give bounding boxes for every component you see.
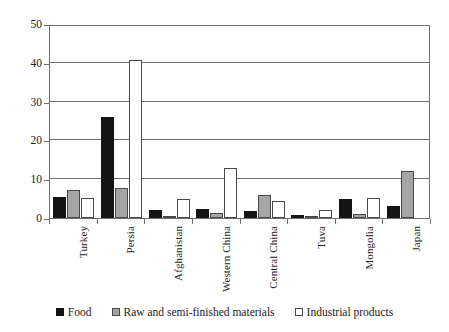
legend-label: Raw and semi-finished materials <box>124 306 275 318</box>
legend-item: Raw and semi-finished materials <box>112 306 275 318</box>
x-axis-tick-mark <box>240 219 241 224</box>
bar-group <box>50 24 98 218</box>
x-axis-tick-mark <box>430 219 431 224</box>
legend-item: Food <box>56 306 92 318</box>
raw-swatch-icon <box>112 308 120 316</box>
bar-raw <box>353 214 366 218</box>
y-axis-tick-label: 30 <box>8 97 42 109</box>
legend-label: Industrial products <box>307 306 394 318</box>
x-axis-category-label: Mongolia <box>364 226 375 270</box>
y-axis-tick-label: 50 <box>8 19 42 31</box>
legend-label: Food <box>68 306 92 318</box>
x-axis-tick-mark <box>287 219 288 224</box>
bar-industrial <box>129 60 142 218</box>
bar-food <box>101 117 114 218</box>
bar-raw <box>305 216 318 218</box>
x-axis-category-label: Central China <box>268 226 279 289</box>
y-axis-tick-label: 20 <box>8 135 42 147</box>
bar-food <box>339 199 352 218</box>
bar-food <box>244 211 257 218</box>
x-axis-tick-mark <box>192 219 193 224</box>
plot-wrapper: 01020304050 TurkeyPersiaAfghanistanWeste… <box>0 0 449 300</box>
chart-legend: FoodRaw and semi-finished materialsIndus… <box>0 306 449 318</box>
bar-food <box>387 206 400 218</box>
x-axis-tick-mark <box>382 219 383 224</box>
food-swatch-icon <box>56 308 64 316</box>
bar-industrial <box>319 210 332 218</box>
bar-group <box>241 24 289 218</box>
bar-group <box>145 24 193 218</box>
x-axis-category-label: Persia <box>125 226 136 253</box>
bar-group <box>98 24 146 218</box>
x-axis-category-label: Turkey <box>78 226 89 258</box>
x-axis-tick-mark <box>335 219 336 224</box>
bar-food <box>196 209 209 218</box>
x-axis-tick-mark <box>144 219 145 224</box>
bar-industrial <box>272 201 285 218</box>
bar-industrial <box>177 199 190 218</box>
y-axis-tick-label: 10 <box>8 174 42 186</box>
bar-group <box>336 24 384 218</box>
bar-raw <box>210 213 223 218</box>
bar-industrial <box>367 198 380 218</box>
x-axis-category-label: Afghanistan <box>173 226 184 281</box>
bar-raw <box>163 216 176 218</box>
y-axis-tick-label: 40 <box>8 58 42 70</box>
bar-group <box>288 24 336 218</box>
legend-item: Industrial products <box>295 306 394 318</box>
bar-food <box>291 215 304 218</box>
bar-group <box>383 24 431 218</box>
bar-food <box>149 210 162 218</box>
bar-chart: 01020304050 TurkeyPersiaAfghanistanWeste… <box>0 0 449 332</box>
industrial-swatch-icon <box>295 308 303 316</box>
x-axis-category-label: Western China <box>221 226 232 292</box>
bar-food <box>53 197 66 218</box>
bar-raw <box>67 190 80 218</box>
x-axis-tick-mark <box>49 219 50 224</box>
x-axis-category-label: Japan <box>411 226 422 252</box>
bar-raw <box>258 195 271 218</box>
bar-raw <box>401 171 414 218</box>
plot-area <box>49 25 430 219</box>
bar-industrial <box>81 198 94 218</box>
x-axis-category-label: Tuva <box>316 226 327 249</box>
y-axis-tick-label: 0 <box>8 213 42 225</box>
bar-raw <box>115 188 128 218</box>
x-axis-tick-mark <box>97 219 98 224</box>
bar-industrial <box>224 168 237 218</box>
bar-group <box>193 24 241 218</box>
